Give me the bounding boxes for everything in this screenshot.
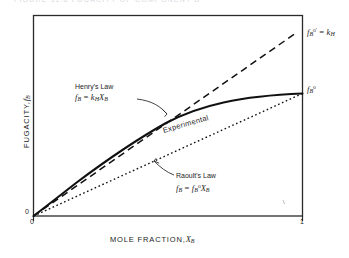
raoults-law-equation: fB = fBoXB — [176, 181, 216, 196]
y-axis-symbol: f — [21, 99, 31, 101]
scan-artifact-speck — [283, 200, 285, 204]
y-axis-symbol-sub: B — [25, 94, 31, 99]
henry-eq-lhs-sub: B — [77, 96, 81, 102]
raoults-law-annotation: Raoult's Law fB = fBoXB — [176, 170, 216, 196]
henry-leader-arrow — [163, 110, 168, 117]
henry-eq-tail-sub: B — [104, 96, 108, 102]
x-axis-title-text: MOLE FRACTION, — [110, 235, 186, 244]
x-axis-symbol-sub: B — [191, 238, 196, 244]
y-tick-label-0: 0 — [25, 208, 29, 215]
figure-container: FIGURE 11.8 FUGACITY OF COMPONENT B FUGA… — [0, 0, 349, 258]
raoult-eq-lhs-sub: B — [178, 187, 182, 193]
y-axis-title: FUGACITY,fB — [21, 73, 31, 169]
raoult-eq-rhs: = f — [184, 183, 194, 193]
f0-symbol-sup: o — [313, 84, 316, 90]
henry-eq-rhs: = k — [83, 92, 95, 102]
henrys-law-equation: fB = kHXB — [75, 92, 113, 105]
henry-leader-line — [137, 99, 167, 114]
y-axis-title-text: FUGACITY, — [22, 101, 31, 148]
raoult-endpoint-label: fBo — [307, 84, 316, 94]
henry-endpoint-label: fBo' = kH — [307, 27, 335, 37]
henrys-law-title: Henry's Law — [75, 81, 113, 92]
henrys-law-annotation: Henry's Law fB = kHXB — [75, 81, 113, 105]
kh-symbol-sup: o' — [313, 27, 317, 33]
raoult-leader-line — [154, 161, 174, 175]
raoults-law-title: Raoult's Law — [176, 170, 216, 181]
kh-equals-sub: H — [330, 31, 334, 37]
raoult-eq-tail-sub: B — [206, 187, 210, 193]
kh-equals: = k — [319, 27, 331, 37]
x-tick-label-0: 0 — [30, 218, 34, 225]
x-axis-title: MOLE FRACTION,XB — [110, 234, 195, 244]
raoults-law-line — [34, 94, 303, 217]
x-tick-label-1: 1 — [300, 218, 304, 225]
